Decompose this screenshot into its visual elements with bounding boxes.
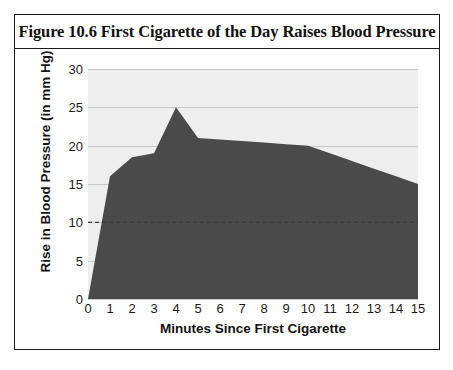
y-axis-tick-label: 30 (55, 62, 83, 77)
y-axis-tick-label: 20 (55, 138, 83, 153)
x-axis-tick-label: 1 (106, 301, 113, 316)
x-axis-tick-label: 0 (84, 301, 91, 316)
chart-body: Rise in Blood Pressure (in mm Hg) 051015… (15, 49, 439, 349)
x-axis-tick-label: 2 (128, 301, 135, 316)
x-axis-title: Minutes Since First Cigarette (88, 321, 418, 336)
figure-title: Figure 10.6 First Cigarette of the Day R… (18, 22, 435, 42)
x-axis-tick-label: 6 (216, 301, 223, 316)
y-axis-tick-label: 0 (55, 292, 83, 307)
plot-area (88, 69, 418, 299)
x-axis-tick-label: 7 (238, 301, 245, 316)
x-axis-tick-label: 8 (260, 301, 267, 316)
y-axis-tick-label: 5 (55, 253, 83, 268)
x-axis-tick-label: 3 (150, 301, 157, 316)
y-axis-tick-label: 10 (55, 215, 83, 230)
x-axis-tick-labels: 0123456789101112131415 (88, 301, 418, 321)
x-axis-tick-label: 14 (389, 301, 403, 316)
x-axis-tick-label: 5 (194, 301, 201, 316)
x-axis-tick-label: 10 (301, 301, 315, 316)
y-axis-tick-label: 15 (55, 177, 83, 192)
x-axis-tick-label: 13 (367, 301, 381, 316)
area-series (88, 69, 418, 299)
figure-container: Figure 10.6 First Cigarette of the Day R… (14, 14, 440, 350)
y-axis-tick-label: 25 (55, 100, 83, 115)
x-axis-tick-label: 9 (282, 301, 289, 316)
x-axis-tick-label: 12 (345, 301, 359, 316)
figure-title-bar: Figure 10.6 First Cigarette of the Day R… (15, 15, 439, 49)
x-axis-tick-label: 15 (411, 301, 425, 316)
x-axis-tick-label: 11 (323, 301, 337, 316)
area-polygon (88, 107, 418, 299)
y-axis-tick-labels: 051015202530 (55, 69, 83, 299)
gridline (88, 299, 418, 300)
y-axis-title: Rise in Blood Pressure (in mm Hg) (38, 47, 53, 277)
x-axis-tick-label: 4 (172, 301, 179, 316)
